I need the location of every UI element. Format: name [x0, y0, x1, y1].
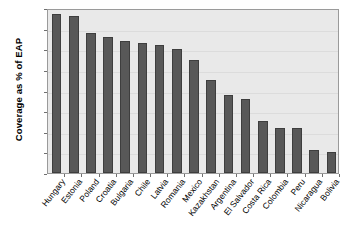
bar [120, 41, 130, 173]
bar [86, 33, 96, 173]
y-tick-mark [44, 174, 47, 175]
bar-chart: Coverage as % of EAP 01020304050607080 H… [0, 0, 348, 243]
bar [69, 16, 79, 173]
gridline [48, 31, 338, 32]
bar [138, 43, 148, 173]
bar [52, 14, 62, 173]
bar [172, 49, 182, 173]
bar [103, 37, 113, 173]
bar [155, 45, 165, 173]
y-axis-title: Coverage as % of EAP [13, 20, 24, 160]
